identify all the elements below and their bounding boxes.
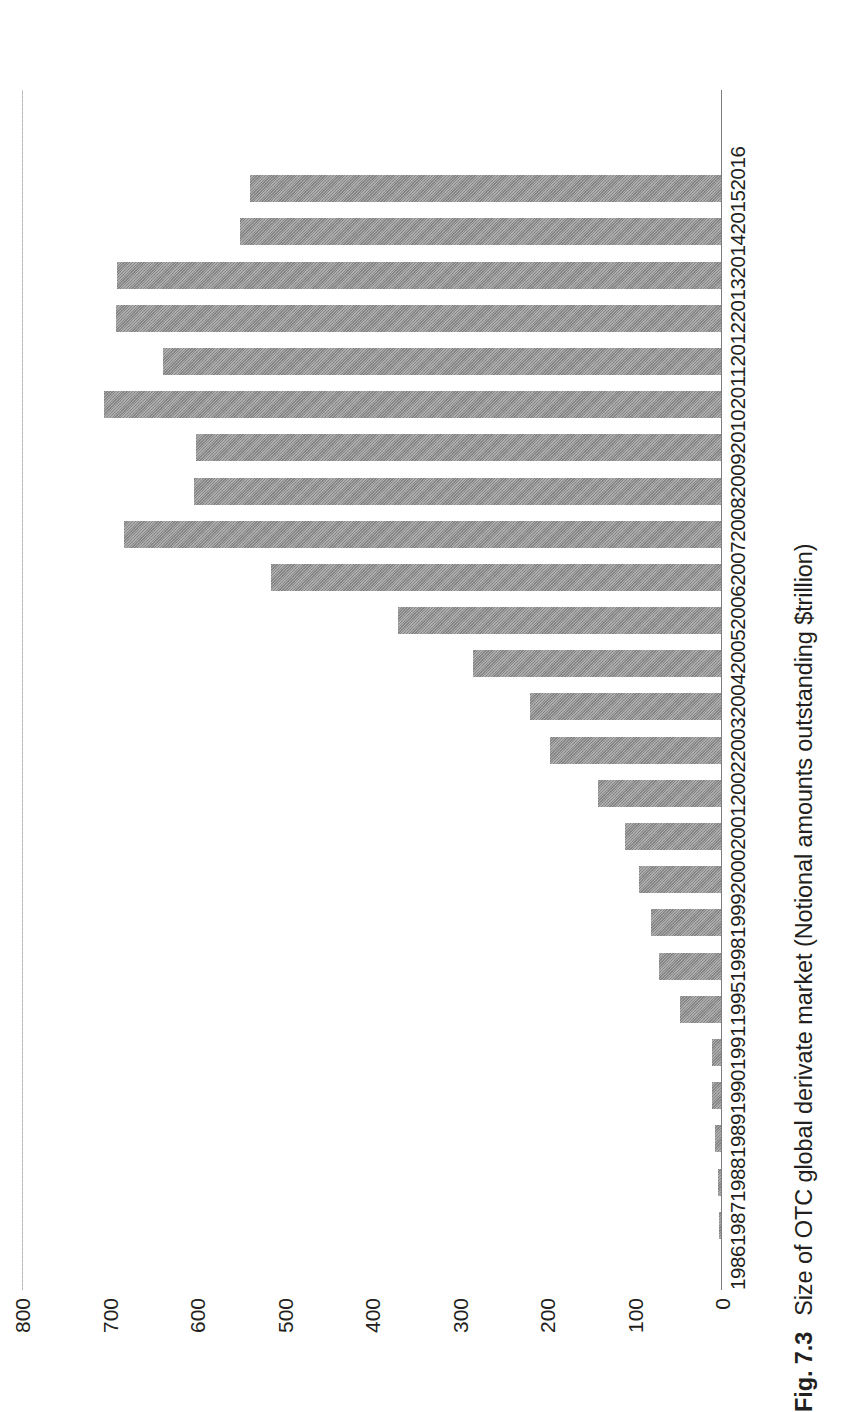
bar-slot <box>22 599 722 642</box>
value-tick-label: 500 <box>274 1298 295 1360</box>
category-tick-label: 1998 <box>726 938 750 982</box>
bar-2005 <box>473 650 722 677</box>
bar-2016 <box>250 175 723 202</box>
value-tick-label: 700 <box>99 1298 120 1360</box>
bar-1999 <box>651 909 722 936</box>
category-tick-label: 2005 <box>726 630 750 674</box>
category-tick-label: 2001 <box>726 806 750 850</box>
bar-2001 <box>625 823 722 850</box>
bar-1998 <box>659 953 722 980</box>
bar-2000 <box>639 866 722 893</box>
bar-slot <box>22 945 722 988</box>
bar-slot <box>22 729 722 772</box>
bar-slot <box>22 340 722 383</box>
bar-series <box>22 90 722 1290</box>
bar-slot <box>22 815 722 858</box>
category-tick-label: 2008 <box>726 498 750 542</box>
category-tick-label: 2016 <box>726 146 750 190</box>
bar-slot <box>22 1117 722 1160</box>
bar-2014 <box>117 262 722 289</box>
value-tick-label: 300 <box>449 1298 470 1360</box>
category-tick-label: 2006 <box>726 586 750 630</box>
bar-2015 <box>240 218 722 245</box>
category-tick-label: 2002 <box>726 762 750 806</box>
value-tick-label: 600 <box>187 1298 208 1360</box>
bar-slot <box>22 297 722 340</box>
category-tick-label: 2014 <box>726 234 750 278</box>
value-tick-label: 0 <box>712 1298 733 1360</box>
bar-slot <box>22 1031 722 1074</box>
figure-caption-text: Size of OTC global derivate market (Noti… <box>791 544 817 1316</box>
bar-slot <box>22 556 722 599</box>
category-tick-label: 1991 <box>726 1026 750 1070</box>
bar-slot <box>22 513 722 556</box>
figure-container: 0100200300400500600700800 19861987198819… <box>0 0 866 1412</box>
bar-2002 <box>598 780 722 807</box>
category-tick-label: 2011 <box>726 367 750 410</box>
bar-1995 <box>680 996 722 1023</box>
bar-slot <box>22 1204 722 1247</box>
bar-slot <box>22 1074 722 1117</box>
bar-slot <box>22 167 722 210</box>
bar-2008 <box>124 521 722 548</box>
figure-caption: Fig. 7.3Size of OTC global derivate mark… <box>790 112 818 1412</box>
value-tick-label: 200 <box>537 1298 558 1360</box>
category-tick-label: 1988 <box>726 1158 750 1202</box>
category-tick-label: 1999 <box>726 894 750 938</box>
category-axis: 1986198719881989199019911995199819992000… <box>726 90 766 1290</box>
bar-2009 <box>194 478 723 505</box>
category-tick-label: 2003 <box>726 718 750 762</box>
category-tick-label: 1990 <box>726 1070 750 1114</box>
bar-2006 <box>398 607 722 634</box>
value-axis: 0100200300400500600700800 <box>22 1298 722 1360</box>
bar-2013 <box>116 305 722 332</box>
bar-slot <box>22 685 722 728</box>
category-tick-label: 2004 <box>726 674 750 718</box>
category-tick-label: 1987 <box>726 1202 750 1246</box>
bar-slot <box>22 210 722 253</box>
bar-slot <box>22 901 722 944</box>
bar-slot <box>22 1247 722 1290</box>
bar-2003 <box>550 737 722 764</box>
bar-2007 <box>271 564 723 591</box>
bar-2010 <box>196 434 722 461</box>
category-tick-label: 2000 <box>726 850 750 894</box>
category-tick-label: 2015 <box>726 190 750 234</box>
figure-number: Fig. 7.3 <box>791 1332 817 1412</box>
bar-slot <box>22 858 722 901</box>
bar-slot <box>22 988 722 1031</box>
bar-2011 <box>104 391 722 418</box>
category-tick-label: 2009 <box>726 454 750 498</box>
category-tick-label: 1995 <box>726 982 750 1026</box>
rotated-figure-stage: 0100200300400500600700800 19861987198819… <box>0 0 866 1412</box>
bar-slot <box>22 1160 722 1203</box>
value-tick-label: 800 <box>12 1298 33 1360</box>
bar-slot <box>22 254 722 297</box>
value-tick-label: 100 <box>624 1298 645 1360</box>
bar-2004 <box>530 693 723 720</box>
value-tick-label: 400 <box>362 1298 383 1360</box>
bar-slot <box>22 426 722 469</box>
bar-2012 <box>163 348 722 375</box>
category-tick-label: 1989 <box>726 1114 750 1158</box>
category-tick-label: 2013 <box>726 278 750 322</box>
value-axis-baseline <box>721 90 722 1290</box>
bar-slot <box>22 383 722 426</box>
bar-slot <box>22 772 722 815</box>
bar-slot <box>22 642 722 685</box>
bar-slot <box>22 469 722 512</box>
category-tick-label: 2010 <box>726 410 750 454</box>
category-tick-label: 2007 <box>726 542 750 586</box>
plot-area <box>22 90 722 1290</box>
category-tick-label: 2012 <box>726 322 750 366</box>
category-tick-label: 1986 <box>726 1246 750 1290</box>
